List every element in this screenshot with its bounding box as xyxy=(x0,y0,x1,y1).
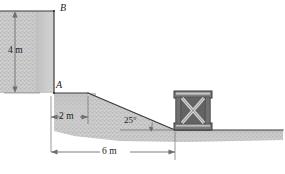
wall-shading xyxy=(36,11,54,93)
figure-canvas xyxy=(0,0,285,174)
point-a-dot xyxy=(53,92,55,94)
crate-top-highlight xyxy=(176,93,210,95)
crate-left-post xyxy=(176,97,181,124)
dim-6m-arrow-left xyxy=(51,150,58,155)
point-label-b: B xyxy=(60,3,66,13)
angle-label-25: 25° xyxy=(124,116,137,125)
crate-bottom-highlight xyxy=(176,125,210,127)
dimension-label-4m: 4 m xyxy=(8,46,23,56)
dimension-label-2m: 2 m xyxy=(59,112,74,122)
point-label-a: A xyxy=(56,80,62,90)
crate-right-post xyxy=(205,97,210,124)
dim-6m-arrow-right xyxy=(169,150,176,155)
embankment-body xyxy=(0,11,284,142)
dimension-label-6m: 6 m xyxy=(102,147,117,157)
crate[interactable] xyxy=(174,91,212,130)
mechanics-figure: B A 4 m 2 m 6 m 25° xyxy=(0,0,285,174)
point-b-dot xyxy=(53,10,55,12)
